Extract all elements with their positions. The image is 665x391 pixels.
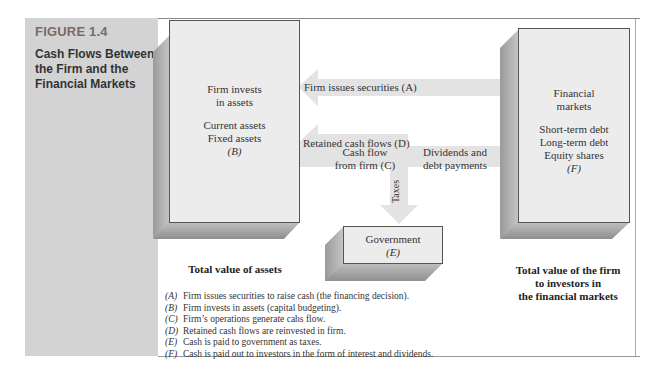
legend-key: (B): [165, 303, 183, 315]
legend-row: (A)Firm issues securities to raise cash …: [165, 291, 433, 303]
markets-box-line: Short-term debt: [519, 123, 629, 136]
markets-box-line: Long-term debt: [519, 136, 629, 149]
legend-key: (F): [165, 349, 183, 361]
legend-row: (D)Retained cash flows are reinvested in…: [165, 326, 433, 338]
firm-box-shadow-bottom: [153, 222, 300, 239]
legend-key: (D): [165, 326, 183, 338]
label-line: debt payments: [415, 159, 495, 172]
firm-box: Firm invests in assets Current assets Fi…: [169, 20, 300, 223]
firm-box-line: Fixed assets: [170, 132, 299, 145]
firm-box-shadow-left: [153, 36, 169, 238]
label-line: Cash flow: [325, 146, 405, 159]
legend-row: (F)Cash is paid out to investors in the …: [165, 349, 433, 361]
markets-box-line: Financial: [519, 87, 629, 100]
legend-key: (E): [165, 337, 183, 349]
label-cash-flow-from-firm: Cash flow from firm (C): [325, 146, 405, 172]
legend-text: Cash is paid to government as taxes.: [183, 337, 322, 349]
markets-caption-line: to investors in: [503, 277, 633, 290]
firm-box-line: Firm invests: [170, 83, 299, 96]
label-issues-securities: Firm issues securities (A): [304, 81, 417, 93]
markets-box-shadow-bottom: [500, 222, 630, 239]
label-dividends: Dividends and debt payments: [415, 146, 495, 172]
legend-text: Retained cash flows are reinvested in fi…: [183, 326, 346, 338]
markets-box-tag: (F): [519, 162, 629, 175]
legend-text: Firm issues securities to raise cash (th…: [183, 291, 409, 303]
government-box-shadow-bottom: [325, 263, 443, 281]
markets-caption: Total value of the firm to investors in …: [503, 264, 633, 303]
firm-box-line: in assets: [170, 96, 299, 109]
legend-row: (B)Firm invests in assets (capital budge…: [165, 303, 433, 315]
legend: (A)Firm issues securities to raise cash …: [165, 291, 433, 361]
firm-box-tag: (B): [170, 145, 299, 158]
markets-box-shadow-left: [500, 30, 518, 238]
markets-box-line: markets: [519, 100, 629, 113]
legend-text: Cash is paid out to investors in the for…: [183, 349, 433, 361]
label-line: Dividends and: [415, 146, 495, 159]
government-box-label: Government: [344, 233, 442, 246]
label-taxes: Taxes: [390, 180, 401, 203]
government-box: Government (E): [343, 226, 443, 264]
legend-row: (C)Firm’s operations generate cahs flow.: [165, 314, 433, 326]
markets-caption-line: Total value of the firm: [503, 264, 633, 277]
government-box-tag: (E): [344, 246, 442, 259]
legend-key: (C): [165, 314, 183, 326]
legend-text: Firm invests in assets (capital budgetin…: [183, 303, 341, 315]
markets-box-line: Equity shares: [519, 149, 629, 162]
markets-box: Financial markets Short-term debt Long-t…: [518, 28, 630, 223]
legend-row: (E)Cash is paid to government as taxes.: [165, 337, 433, 349]
legend-key: (A): [165, 291, 183, 303]
label-line: from firm (C): [325, 159, 405, 172]
legend-text: Firm’s operations generate cahs flow.: [183, 314, 325, 326]
markets-caption-line: the financial markets: [503, 290, 633, 303]
firm-caption: Total value of assets: [160, 263, 310, 276]
firm-box-line: Current assets: [170, 119, 299, 132]
